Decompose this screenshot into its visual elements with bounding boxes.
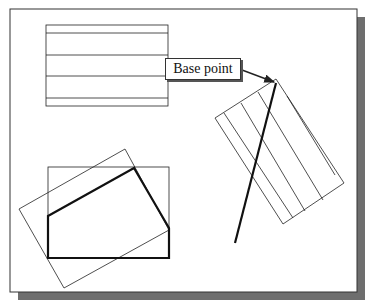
base-point-label: Base point bbox=[165, 58, 241, 80]
base-point-label-text: Base point bbox=[173, 61, 233, 77]
drawing-frame bbox=[10, 9, 357, 292]
diagram-canvas bbox=[0, 0, 373, 305]
